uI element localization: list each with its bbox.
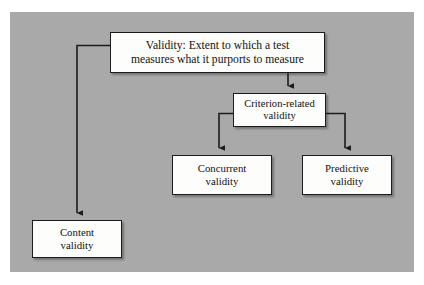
content-validity-box: Content validity bbox=[32, 220, 122, 258]
validity-definition-box: Validity: Extent to which a test measure… bbox=[110, 32, 325, 73]
criterion-related-validity-label: Criterion-related validity bbox=[240, 98, 319, 123]
validity-flowchart-figure: Validity: Extent to which a test measure… bbox=[0, 0, 424, 285]
criterion-related-validity-box: Criterion-related validity bbox=[233, 93, 326, 127]
predictive-validity-label: Predictive validity bbox=[321, 162, 373, 187]
validity-definition-label: Validity: Extent to which a test measure… bbox=[127, 39, 308, 66]
concurrent-validity-box: Concurrent validity bbox=[172, 155, 272, 195]
connector-root-to-content bbox=[77, 46, 110, 214]
concurrent-validity-label: Concurrent validity bbox=[194, 162, 251, 187]
connector-criterion-to-predictive bbox=[326, 114, 345, 149]
predictive-validity-box: Predictive validity bbox=[302, 155, 392, 195]
connector-criterion-to-concurrent bbox=[219, 114, 233, 149]
content-validity-label: Content validity bbox=[56, 226, 98, 251]
